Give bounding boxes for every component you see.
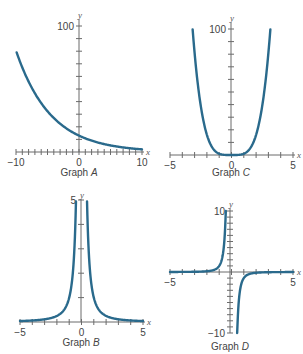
graph-c: yx−505100Graph C bbox=[164, 13, 301, 178]
function-curve bbox=[170, 211, 226, 272]
graph-a: yx−10010100Graph A bbox=[8, 10, 150, 178]
y-axis-label: y bbox=[228, 199, 233, 209]
x-axis-label: x bbox=[146, 317, 151, 327]
x-axis-label: x bbox=[296, 150, 301, 160]
y-tick-label: 100 bbox=[209, 24, 226, 35]
x-tick-label: 5 bbox=[290, 160, 296, 171]
x-tick-label: 10 bbox=[136, 157, 148, 168]
y-axis-label: y bbox=[229, 13, 234, 23]
y-tick-label: −10 bbox=[208, 328, 225, 339]
function-curve bbox=[237, 272, 293, 333]
function-curve bbox=[87, 202, 143, 322]
x-tick-label: −5 bbox=[14, 327, 26, 338]
graph-caption: Graph C bbox=[212, 167, 251, 178]
x-axis-label: x bbox=[145, 147, 150, 157]
graph-caption: Graph A bbox=[60, 167, 98, 178]
graph-caption: Graph D bbox=[211, 341, 249, 352]
graph-d: yx−5510−10Graph D bbox=[164, 199, 301, 352]
y-axis-label: y bbox=[79, 190, 84, 200]
x-tick-label: −5 bbox=[164, 277, 176, 288]
x-tick-label: −10 bbox=[8, 157, 25, 168]
function-curve bbox=[20, 202, 76, 322]
x-tick-label: 5 bbox=[140, 327, 146, 338]
graph-b: yx−5055Graph B bbox=[14, 190, 151, 348]
x-tick-label: −5 bbox=[164, 160, 176, 171]
y-tick-label: 10 bbox=[214, 206, 226, 217]
graphs-figure: yx−10010100Graph A yx−505100Graph C yx−5… bbox=[0, 0, 303, 354]
y-axis-label: y bbox=[77, 10, 82, 20]
x-axis-label: x bbox=[296, 267, 301, 277]
graph-caption: Graph B bbox=[62, 337, 100, 348]
x-tick-label: 5 bbox=[290, 277, 296, 288]
y-tick-label: 100 bbox=[57, 21, 74, 32]
